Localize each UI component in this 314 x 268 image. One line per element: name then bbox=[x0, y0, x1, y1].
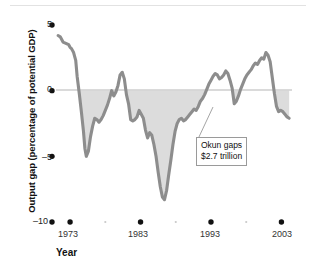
x-tick-dot-minor bbox=[175, 221, 177, 223]
x-tick-label-1993: 1993 bbox=[193, 229, 227, 239]
x-tick-label-2003: 2003 bbox=[265, 229, 299, 239]
x-tick-dot bbox=[138, 219, 143, 224]
annotation-line-2: $2.7 trillion bbox=[201, 151, 242, 162]
x-axis-title: Year bbox=[56, 247, 77, 258]
x-tick-dot bbox=[208, 219, 213, 224]
annotation-line-1: Okun gaps bbox=[201, 140, 242, 151]
y-tick-label-minus10: –10 bbox=[26, 216, 48, 226]
y-tick-dot bbox=[49, 219, 54, 224]
x-tick-label-1973: 1973 bbox=[51, 229, 85, 239]
x-tick-label-1983: 1983 bbox=[121, 229, 155, 239]
x-tick-dot bbox=[279, 219, 284, 224]
y-tick-label-minus5: –5 bbox=[30, 152, 52, 162]
okun-gaps-annotation: Okun gaps $2.7 trillion bbox=[196, 137, 247, 166]
x-tick-dot bbox=[67, 219, 72, 224]
y-tick-label-5: 5 bbox=[30, 19, 52, 29]
chart-plot-area bbox=[0, 0, 314, 268]
okun-gap-shaded-band bbox=[79, 91, 289, 200]
x-tick-dot-minor bbox=[104, 221, 106, 223]
y-axis-title: Output gap (percentage of potential GDP) bbox=[26, 16, 42, 226]
annotation-leader-line bbox=[198, 107, 213, 139]
x-tick-dot-minor bbox=[245, 221, 247, 223]
y-tick-label-0: 0 bbox=[30, 84, 52, 94]
output-gap-chart-figure: Output gap (percentage of potential GDP)… bbox=[0, 0, 314, 268]
